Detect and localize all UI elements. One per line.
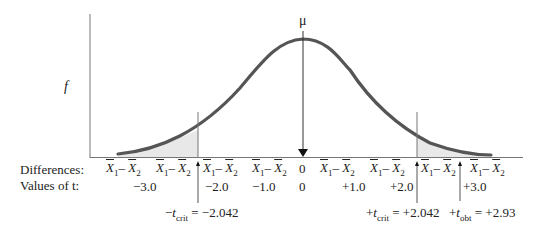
difference-label: X1– X2 [156,160,191,178]
upper-crit-arrowhead [415,161,419,166]
t-value: −2.0 [205,179,229,195]
t-value: +1.0 [342,179,366,195]
distribution-graph [0,0,545,236]
difference-label: X1– X2 [252,160,287,178]
difference-label: X1– X2 [203,160,238,178]
t-value: −1.0 [252,179,276,195]
difference-label: X1– X2 [470,160,505,178]
lower-critical-value: −tcrit = −2.042 [165,205,238,223]
mean-arrowhead [298,149,308,157]
t-value: +3.0 [463,179,487,195]
upper-critical-value: +tcrit = +2.042 [366,205,439,223]
lower-crit-arrowhead [196,161,200,166]
t-value: 0 [299,179,306,195]
differences-row-label: Differences: [20,162,84,178]
y-axis-label: f [64,79,68,95]
difference-label: X1– X2 [421,160,456,178]
t-value: +2.0 [390,179,414,195]
difference-label: X1– X2 [320,160,355,178]
obtained-value: +tobt = +2.93 [449,205,515,223]
t-values-row-label: Values of t: [20,178,79,194]
mean-label: μ [299,13,307,29]
obt-arrowhead [458,161,462,166]
t-values-label-text: Values of t: [20,178,79,193]
t-value: −3.0 [133,179,157,195]
t-distribution-curve [118,39,491,155]
difference-label: X1– X2 [370,160,405,178]
difference-label: X1– X2 [106,160,141,178]
difference-zero: 0 [299,161,306,177]
